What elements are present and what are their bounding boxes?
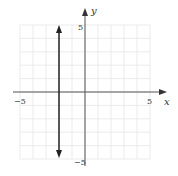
y-tick-max: 5 [78, 23, 83, 32]
y-axis-label: y [90, 5, 97, 16]
y-axis-arrow-icon [82, 8, 88, 16]
x-axis-label: x [164, 96, 170, 107]
line-bottom-arrow-icon [56, 150, 62, 158]
x-axis-arrow-icon [159, 89, 167, 95]
coordinate-plane: −5 5 5 −5 x y [0, 0, 178, 176]
line-top-arrow-icon [56, 25, 62, 33]
x-tick-max: 5 [147, 97, 152, 106]
x-tick-min: −5 [14, 97, 26, 106]
y-tick-min: −5 [74, 158, 86, 167]
